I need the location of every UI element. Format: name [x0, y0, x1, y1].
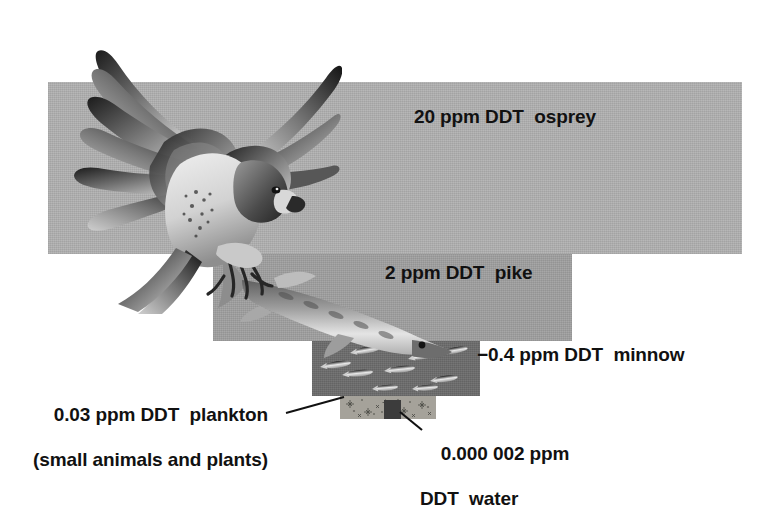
- label-minnow: −0.4 ppm DDT minnow: [477, 344, 685, 366]
- label-plankton: 0.03 ppm DDT plankton (small animals and…: [33, 382, 268, 509]
- pike-eye: [419, 342, 426, 349]
- label-water-line2: DDT water: [420, 488, 569, 509]
- osprey-head: [233, 160, 305, 223]
- label-osprey: 20 ppm DDT osprey: [414, 106, 596, 128]
- plankton-leader-line: [286, 397, 344, 413]
- label-water-line1: 0.000 002 ppm: [441, 443, 570, 464]
- osprey-tail: [118, 248, 202, 314]
- band-water: [384, 400, 401, 419]
- label-water: 0.000 002 ppm DDT water: [420, 421, 569, 509]
- osprey-illustration: [52, 24, 342, 314]
- pike-head: [412, 340, 452, 358]
- label-plankton-line2: (small animals and plants): [33, 449, 268, 471]
- pike-anal-fin: [324, 334, 354, 358]
- label-plankton-line1: 0.03 ppm DDT plankton: [54, 404, 268, 425]
